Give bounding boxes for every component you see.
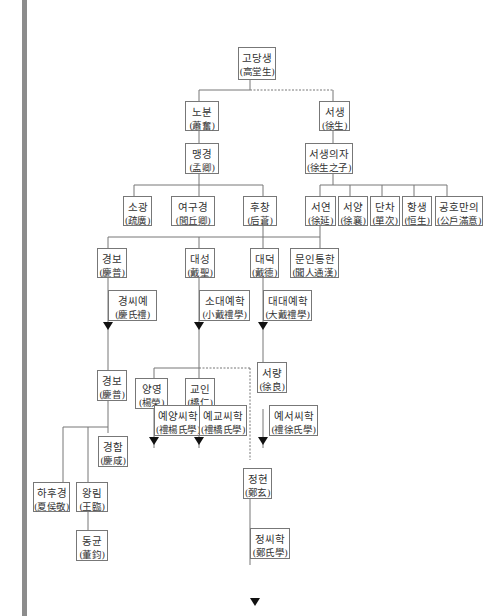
node-label-hanja: (禮橋氏學) <box>200 423 246 436</box>
node-lvqiuqing: 여구경 (閭丘卿) <box>171 196 215 226</box>
node-label-hanja: (單次) <box>371 214 399 227</box>
node-label-ko: 하후경 <box>34 487 69 500</box>
node-label-ko: 왕림 <box>77 487 107 500</box>
node-label-hanja: (鄭氏學) <box>251 546 289 559</box>
node-qingpu-2: 경보 (慶普) <box>97 370 127 401</box>
node-xiahoujing: 하후경 (夏侯敬) <box>33 482 70 512</box>
node-label-ko: 공호만의 <box>436 201 482 214</box>
node-label-hanja: (慶咸) <box>99 454 127 467</box>
node-label-ko: 여구경 <box>172 201 214 214</box>
node-label-ko: 대덕 <box>251 253 278 266</box>
node-label-ko: 서생의자 <box>306 148 352 161</box>
node-qingxian: 경함 (慶咸) <box>98 436 128 467</box>
node-wenren: 문인통한 (聞人通漢) <box>290 248 339 278</box>
node-label-hanja: (慶普) <box>98 266 126 279</box>
node-xiaofen: 노분 (蕭奮) <box>185 101 219 131</box>
node-qingpu-1: 경보 (慶普) <box>97 248 127 278</box>
node-xuliang: 서량 (徐良) <box>257 362 287 393</box>
node-label-hanja: (禮楊氏學) <box>155 423 201 436</box>
node-label-ko: 대대예학 <box>264 295 311 308</box>
node-label-ko: 서연 <box>306 201 335 214</box>
node-dadaili: 대대예학 (大戴禮學) <box>263 290 312 321</box>
node-label-ko: 동균 <box>77 535 107 548</box>
node-danci: 단차 (單次) <box>370 196 400 226</box>
node-xuxiang: 서양 (徐襄) <box>338 196 368 226</box>
node-daide: 대덕 (戴德) <box>250 248 279 278</box>
node-zhengshi: 정씨학 (鄭氏學) <box>250 528 290 559</box>
node-xuyan: 서연 (徐延) <box>305 196 336 226</box>
node-label-ko: 교인 <box>186 383 214 396</box>
node-label-ko: 정씨학 <box>251 533 289 546</box>
node-label-ko: 문인통한 <box>291 253 338 266</box>
node-label-ko: 예양씨학 <box>155 410 201 423</box>
node-label-hanja: (董鈞) <box>77 548 107 561</box>
node-label-hanja: (閭丘卿) <box>172 214 214 227</box>
node-xusheng: 서생 (徐生) <box>319 101 350 131</box>
node-label-ko: 고당생 <box>239 52 275 65</box>
node-label-ko: 서생 <box>320 106 349 119</box>
node-label-ko: 경씨예 <box>109 295 156 308</box>
node-label-hanja: (聞人通漢) <box>291 266 338 279</box>
node-label-hanja: (戴聖) <box>186 266 214 279</box>
node-label-hanja: (大戴禮學) <box>264 308 311 321</box>
node-label-ko: 소광 <box>124 201 151 214</box>
node-label-hanja: (徐生之子) <box>306 161 352 174</box>
node-qingshili: 경씨예 (慶氏禮) <box>108 290 157 321</box>
node-label-hanja: (徐襄) <box>339 214 367 227</box>
node-label-ko: 서양 <box>339 201 367 214</box>
node-label-hanja: (高堂生) <box>239 65 275 78</box>
node-wanglin: 왕림 (王臨) <box>76 482 108 512</box>
node-label-hanja: (孟卿) <box>186 161 218 174</box>
node-lixu: 예서씨학 (禮徐氏學) <box>269 405 318 436</box>
node-label-hanja: (戴德) <box>251 266 278 279</box>
node-label-ko: 서량 <box>258 367 286 380</box>
node-label-ko: 경보 <box>98 375 126 388</box>
node-label-ko: 경함 <box>99 441 127 454</box>
node-gaodangsheng: 고당생 (高堂生) <box>238 47 276 80</box>
node-label-ko: 단차 <box>371 201 399 214</box>
node-dongjun: 동균 (董鈞) <box>76 530 108 561</box>
node-label-hanja: (夏侯敬) <box>34 500 69 513</box>
node-label-ko: 예교씨학 <box>200 410 246 423</box>
node-label-hanja: (禮徐氏學) <box>270 423 317 436</box>
node-label-ko: 경보 <box>98 253 126 266</box>
node-gonghu: 공호만의 (公戶滿意) <box>435 196 483 226</box>
node-xusheng-zi: 서생의자 (徐生之子) <box>305 143 353 174</box>
node-shuguang: 소광 (疏廣) <box>123 196 152 226</box>
node-label-ko: 소대예학 <box>200 295 249 308</box>
node-mengqing: 맹경 (孟卿) <box>185 143 219 174</box>
node-label-hanja: (鄭玄) <box>244 486 271 499</box>
node-label-ko: 후창 <box>244 201 276 214</box>
node-label-hanja: (徐生) <box>320 119 349 132</box>
node-daisheng: 대성 (戴聖) <box>185 248 215 278</box>
node-label-hanja: (徐良) <box>258 380 286 393</box>
node-label-hanja: (徐延) <box>306 214 335 227</box>
node-label-ko: 항생 <box>403 201 431 214</box>
node-label-hanja: (慶普) <box>98 388 126 401</box>
node-label-hanja: (王臨) <box>77 500 107 513</box>
node-label-hanja: (后蒼) <box>244 214 276 227</box>
node-label-ko: 맹경 <box>186 148 218 161</box>
node-label-ko: 노분 <box>186 106 218 119</box>
node-liqiao: 예교씨학 (禮橋氏學) <box>199 405 247 436</box>
node-label-ko: 정현 <box>244 473 271 486</box>
node-label-hanja: (慶氏禮) <box>109 308 156 321</box>
node-label-hanja: (蕭奮) <box>186 119 218 132</box>
node-xiaodaili: 소대예학 (小戴禮學) <box>199 290 250 321</box>
node-label-hanja: (小戴禮學) <box>200 308 249 321</box>
node-hengsheng: 항생 (恒生) <box>402 196 432 226</box>
node-liyang: 예양씨학 (禮楊氏學) <box>154 405 202 436</box>
node-label-hanja: (疏廣) <box>124 214 151 227</box>
node-label-hanja: (公戶滿意) <box>436 214 482 227</box>
node-label-ko: 대성 <box>186 253 214 266</box>
node-zhengxuan: 정현 (鄭玄) <box>243 468 272 499</box>
node-houcang: 후창 (后蒼) <box>243 196 277 226</box>
node-label-ko: 양영 <box>136 383 167 396</box>
node-label-hanja: (恒生) <box>403 214 431 227</box>
node-label-ko: 예서씨학 <box>270 410 317 423</box>
